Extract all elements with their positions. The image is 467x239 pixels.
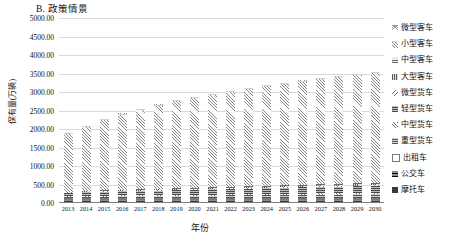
y-axis-tick: 1000.00	[30, 162, 54, 171]
x-axis-tick: 2025	[276, 205, 294, 219]
legend-item[interactable]: 重型货车	[392, 133, 467, 149]
legend-item[interactable]: 摩托车	[392, 182, 467, 198]
legend-swatch-icon	[392, 25, 398, 31]
stacked-bar[interactable]	[118, 113, 127, 203]
legend-item[interactable]: 小型客车	[392, 36, 467, 52]
legend-item[interactable]: 大型客车	[392, 69, 467, 85]
stacked-bar[interactable]	[82, 126, 91, 203]
bar-slot	[294, 18, 312, 203]
legend-item[interactable]: 微型货车	[392, 85, 467, 101]
legend-swatch-icon	[392, 187, 398, 193]
bar-slot	[77, 18, 95, 203]
stacked-bar[interactable]	[298, 80, 307, 203]
y-axis-tick: 5000.00	[30, 14, 54, 23]
x-axis-tick-labels: 2013201420152016201720182019202020212022…	[59, 205, 384, 219]
bar-segment	[208, 94, 217, 188]
legend-swatch-icon	[392, 41, 398, 48]
stacked-bar[interactable]	[190, 97, 199, 203]
legend-swatch-icon	[392, 122, 398, 128]
legend-swatch-icon	[392, 154, 400, 162]
y-axis-tick: 4500.00	[30, 32, 54, 41]
stacked-bar[interactable]	[100, 119, 109, 203]
legend-label: 重型货车	[401, 137, 433, 145]
stacked-bar[interactable]	[280, 83, 289, 203]
bar-slot	[113, 18, 131, 203]
y-axis-tick: 0.00	[41, 199, 54, 208]
bar-segment	[316, 78, 325, 184]
plot-area	[59, 18, 384, 203]
bar-segment	[100, 119, 109, 190]
legend-label: 摩托车	[401, 186, 425, 194]
bar-segment	[244, 88, 253, 186]
stacked-bar[interactable]	[64, 133, 73, 203]
bar-segment	[82, 126, 91, 191]
bar-segment	[136, 109, 145, 190]
bar-slot	[131, 18, 149, 203]
stacked-bar[interactable]	[172, 100, 181, 203]
bar-segment	[334, 76, 343, 184]
x-axis-tick: 2014	[77, 205, 95, 219]
bar-slot	[330, 18, 348, 203]
bar-slot	[167, 18, 185, 203]
bar-segment	[334, 187, 343, 194]
x-axis-tick: 2016	[113, 205, 131, 219]
legend-label: 中型货车	[401, 121, 433, 129]
x-axis-tick: 2013	[59, 205, 77, 219]
x-axis-line	[59, 202, 384, 203]
stacked-bar[interactable]	[371, 72, 380, 203]
bar-segment	[353, 74, 362, 183]
x-axis-tick: 2030	[366, 205, 384, 219]
legend-label: 微型客车	[401, 24, 433, 32]
stacked-bar[interactable]	[244, 88, 253, 203]
bar-slot	[366, 18, 384, 203]
legend-label: 轻型货车	[401, 105, 433, 113]
bar-segment	[371, 186, 380, 193]
bar-slot	[95, 18, 113, 203]
x-axis-tick: 2020	[185, 205, 203, 219]
x-axis-tick: 2019	[167, 205, 185, 219]
legend-item[interactable]: 轻型货车	[392, 101, 467, 117]
x-axis-tick: 2021	[204, 205, 222, 219]
legend-item[interactable]: 中型客车	[392, 52, 467, 68]
bar-segment	[190, 97, 199, 188]
legend-item[interactable]: 公交车	[392, 166, 467, 182]
bar-slot	[149, 18, 167, 203]
bar-slot	[276, 18, 294, 203]
stacked-bar[interactable]	[316, 78, 325, 203]
y-axis-tick-labels: 5000.004500.004000.003500.003000.002500.…	[0, 18, 57, 203]
stacked-bar[interactable]	[262, 85, 271, 203]
stacked-bar[interactable]	[208, 94, 217, 203]
legend: 微型客车小型客车中型客车大型客车微型货车轻型货车中型货车重型货车出租车公交车摩托…	[392, 20, 467, 198]
legend-item[interactable]: 中型货车	[392, 117, 467, 133]
chart-root: B. 政策情景 保有量(万辆) 5000.004500.004000.00350…	[0, 0, 467, 239]
bar-segment	[262, 85, 271, 186]
stacked-bar[interactable]	[353, 74, 362, 203]
bar-slot	[258, 18, 276, 203]
x-axis-tick: 2026	[294, 205, 312, 219]
legend-item[interactable]: 微型客车	[392, 20, 467, 36]
x-axis-tick: 2017	[131, 205, 149, 219]
bar-slot	[222, 18, 240, 203]
y-axis-tick: 2000.00	[30, 125, 54, 134]
bar-slot	[312, 18, 330, 203]
stacked-bar[interactable]	[226, 91, 235, 203]
stacked-bar[interactable]	[334, 76, 343, 203]
x-axis-tick: 2024	[258, 205, 276, 219]
legend-label: 微型货车	[401, 89, 433, 97]
stacked-bar[interactable]	[154, 104, 163, 203]
legend-label: 中型客车	[401, 56, 433, 64]
stacked-bar[interactable]	[136, 109, 145, 203]
bar-slot	[348, 18, 366, 203]
legend-label: 小型客车	[401, 40, 433, 48]
y-axis-tick: 4000.00	[30, 51, 54, 60]
x-axis-title: 年份	[0, 221, 400, 234]
bar-segment	[280, 83, 289, 185]
bar-segment	[118, 114, 127, 190]
x-axis-tick: 2028	[330, 205, 348, 219]
x-axis-tick: 2015	[95, 205, 113, 219]
legend-item[interactable]: 出租车	[392, 150, 467, 166]
x-axis-tick: 2029	[348, 205, 366, 219]
bar-slot	[204, 18, 222, 203]
x-axis-tick: 2022	[222, 205, 240, 219]
y-axis-tick: 2500.00	[30, 106, 54, 115]
